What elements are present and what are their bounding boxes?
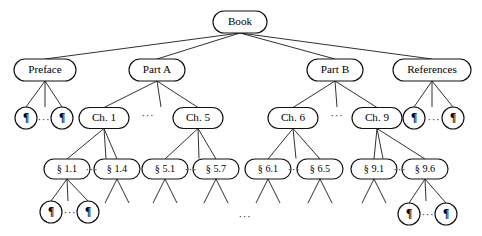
tree-stub-edge [256,179,268,203]
tree-node-ref-p2[interactable]: ¶ [442,107,464,129]
tree-stub-edge [153,179,165,203]
tree-edge [432,81,453,107]
tree-edge [240,33,335,59]
tree-node-partB[interactable]: Part B [307,59,363,81]
tree-stub-edge [308,179,320,203]
tree-edge [293,81,335,108]
tree-node-book[interactable]: Book [213,11,267,33]
tree-node-s5-1[interactable]: § 5.1 [142,159,188,179]
tree-node-s1-1[interactable]: § 1.1 [44,159,90,179]
tree-node-s6-5[interactable]: § 6.5 [297,159,343,179]
tree-node-s11-p1[interactable]: ¶ [40,201,62,223]
tree-stub-edge [374,179,386,203]
tree-edge [425,179,446,203]
tree-stub-edge [67,179,68,201]
tree-edge [67,129,104,160]
tree-svg-canvas: BookPrefacePart APart BReferences¶¶Ch. 1… [0,0,482,236]
tree-node-ch5[interactable]: Ch. 5 [173,108,223,129]
tree-stub-edge [157,81,161,107]
node-layer: BookPrefacePart APart BReferences¶¶Ch. 1… [14,11,471,225]
node-label: § 9.1 [364,163,384,174]
node-label: Part A [143,63,171,75]
ellipsis-ell-partA-chapters: ··· [142,109,155,121]
tree-stub-edge [105,179,117,203]
node-label: ¶ [411,111,417,124]
tree-stub-edge [165,179,177,203]
ellipsis-ell-partB-chapters: ··· [331,109,344,121]
tree-stub-edge [268,179,280,203]
node-label: ¶ [443,207,449,220]
node-label: § 6.5 [310,163,330,174]
tree-node-s9-6[interactable]: § 9.6 [402,159,448,179]
tree-edge [335,81,377,108]
tree-node-partA[interactable]: Part A [129,59,185,81]
tree-node-s11-p2[interactable]: ¶ [77,201,99,223]
tree-node-pre-p2[interactable]: ¶ [51,107,73,129]
ellipsis-ell-preface-children: ··· [38,113,51,125]
tree-stub-edge [362,179,374,203]
node-label: Book [228,15,253,27]
tree-edge [104,81,157,108]
tree-stub-edge [204,179,216,203]
ellipsis-ell-ch1-sections: ··· [86,163,99,175]
node-label: Ch. 5 [186,111,211,123]
node-label: § 5.7 [206,163,226,174]
node-label: § 1.1 [57,163,77,174]
tree-stub-edge [117,179,129,203]
tree-node-preface[interactable]: Preface [14,59,76,81]
tree-node-refs[interactable]: References [393,59,471,81]
node-label: Preface [28,63,62,75]
tree-node-s1-4[interactable]: § 1.4 [94,159,140,179]
tree-edge [157,33,240,59]
node-label: ¶ [406,207,412,220]
tree-edge [67,179,88,201]
node-label: § 9.6 [415,163,435,174]
node-label: § 1.4 [107,163,127,174]
tree-stub-edge [216,179,228,203]
tree-node-s96-p1[interactable]: ¶ [398,203,420,225]
node-label: Ch. 9 [365,111,390,123]
node-label: Ch. 1 [92,111,116,123]
ellipsis-ell-s11-paras: ··· [64,206,77,218]
tree-stub-edge [320,179,332,203]
tree-stub-edge [293,129,296,159]
tree-stub-edge [335,81,337,107]
node-label: ¶ [23,111,29,124]
node-label: ¶ [450,111,456,124]
tree-edge [409,179,425,203]
ellipsis-ell-s96-paras: ··· [422,208,435,220]
tree-node-pre-p1[interactable]: ¶ [15,107,37,129]
tree-stub-edge [198,129,199,159]
node-label: References [407,63,457,75]
tree-node-ch6[interactable]: Ch. 6 [268,108,318,129]
tree-edge [51,179,67,201]
tree-node-s96-p2[interactable]: ¶ [435,203,457,225]
tree-edge [293,129,320,160]
tree-node-s9-1[interactable]: § 9.1 [351,159,397,179]
document-tree-diagram: BookPrefacePart APart BReferences¶¶Ch. 1… [0,0,482,236]
ellipsis-ell-refs-children: ··· [428,113,441,125]
stub-edge-layer [45,81,432,203]
tree-node-s6-1[interactable]: § 6.1 [245,159,291,179]
tree-edge [414,81,432,107]
tree-edge [157,81,198,108]
tree-edge [165,129,198,160]
node-label: § 5.1 [155,163,175,174]
node-label: ¶ [85,205,91,218]
tree-edge [374,129,377,160]
tree-edge [198,129,216,160]
tree-edge [240,33,432,59]
tree-edge [26,81,45,107]
tree-node-s5-7[interactable]: § 5.7 [193,159,239,179]
tree-edge [45,81,62,107]
ellipsis-ell-ch9-sections: ··· [394,163,407,175]
tree-node-ch9[interactable]: Ch. 9 [352,108,402,129]
tree-node-ch1[interactable]: Ch. 1 [79,108,129,129]
ellipsis-ell-bottom-center: ··· [239,210,252,222]
ellipsis-ell-ch6-sections: ··· [288,163,301,175]
tree-edge [45,33,240,59]
node-label: Ch. 6 [281,111,306,123]
node-label: ¶ [59,111,65,124]
node-label: Part B [321,63,349,75]
tree-node-ref-p1[interactable]: ¶ [403,107,425,129]
